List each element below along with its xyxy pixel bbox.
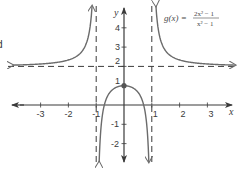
function-name: g(x) = xyxy=(164,13,187,23)
local-max-point xyxy=(121,83,126,88)
x-axis-label: x xyxy=(228,106,234,117)
function-graph: d -3-2-1123-2-11234 x y g(x) = 2x² − 1 x… xyxy=(0,0,246,174)
x-tick-label: -3 xyxy=(37,109,45,119)
x-tick-label: 1 xyxy=(153,109,158,119)
x-tick-label: 2 xyxy=(181,109,186,119)
y-tick-label: -1 xyxy=(111,119,119,129)
function-denominator: x² − 1 xyxy=(197,20,214,28)
function-label: g(x) = 2x² − 1 x² − 1 xyxy=(164,10,219,28)
function-name-text: g(x) = xyxy=(164,13,187,23)
y-tick-label: 1 xyxy=(115,76,120,86)
y-tick-label: 3 xyxy=(115,42,120,52)
asymptotes-group xyxy=(8,6,236,162)
y-axis-label: y xyxy=(113,7,119,18)
y-tick-label: -2 xyxy=(111,139,119,149)
points-group xyxy=(121,83,126,88)
x-tick-label: -2 xyxy=(64,109,72,119)
curve-left-branch xyxy=(13,6,92,65)
y-tick-label: 4 xyxy=(115,23,120,33)
x-tick-label: -1 xyxy=(92,109,100,119)
x-tick-label: 3 xyxy=(208,109,213,119)
function-numerator: 2x² − 1 xyxy=(194,10,215,18)
cropped-edge-text: d xyxy=(0,39,3,50)
y-tick-label: 2 xyxy=(115,56,120,66)
